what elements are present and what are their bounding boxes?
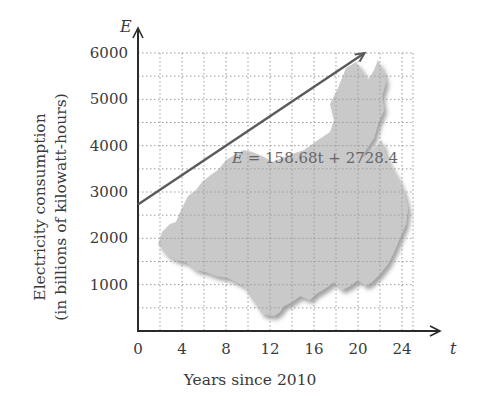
x-axis-label: Years since 2010 (183, 371, 317, 389)
y-axis-variable: E (119, 17, 132, 36)
x-tick-label: 4 (177, 340, 187, 358)
y-tick-label: 4000 (90, 137, 128, 155)
y-tick-label: 2000 (90, 229, 128, 247)
y-tick-label: 3000 (90, 183, 128, 201)
x-tick-label: 24 (392, 340, 411, 358)
y-axis-label-line1: Electricity consumption (31, 113, 49, 300)
y-axis-label-line2: (in billions of kilowatt-hours) (52, 93, 70, 320)
x-tick-label: 0 (133, 340, 143, 358)
y-tick-label: 1000 (90, 276, 128, 294)
x-tick-label: 8 (221, 340, 231, 358)
equation-annotation: E = 158.68t + 2728.4 (231, 149, 398, 167)
y-tick-labels: 100020003000400050006000 (90, 44, 128, 294)
x-tick-label: 20 (348, 340, 367, 358)
x-axis-variable: t (450, 339, 457, 358)
x-tick-label: 12 (260, 340, 279, 358)
china-map-silhouette (158, 60, 408, 316)
x-tick-labels: 04812162024 (133, 340, 411, 358)
y-tick-label: 5000 (90, 90, 128, 108)
y-tick-label: 6000 (90, 44, 128, 62)
chart: 100020003000400050006000 04812162024 E t… (0, 0, 492, 409)
x-tick-label: 16 (304, 340, 323, 358)
